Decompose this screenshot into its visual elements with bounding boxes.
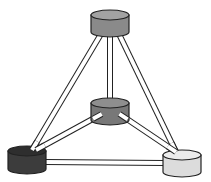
rod-bottom-left-bottom-right: [45, 162, 164, 163]
cylinder-nodes: [8, 10, 201, 177]
rod-socket: [93, 114, 102, 119]
cylinder-node-center: [91, 98, 129, 125]
cylinder-node-top: [91, 10, 129, 37]
tetrahedron-diagram: [0, 0, 211, 182]
rod-joint: [36, 145, 45, 150]
cylinder-node-bottom-right: [163, 150, 201, 177]
